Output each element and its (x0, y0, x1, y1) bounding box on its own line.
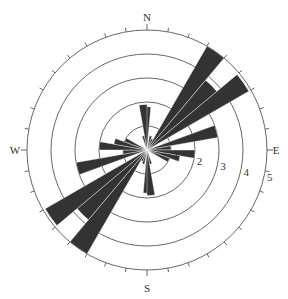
tick-mark (67, 242, 70, 245)
petals (45, 46, 249, 254)
tick-mark (52, 70, 55, 73)
tick-mark (224, 55, 227, 58)
tick-mark (52, 227, 55, 230)
tick-mark (105, 263, 106, 267)
tick-mark (40, 210, 43, 212)
tick-mark (125, 28, 126, 32)
tick-mark (168, 268, 169, 272)
tick-mark (85, 254, 87, 257)
label-south: S (144, 282, 150, 294)
tick-mark (265, 128, 269, 129)
ring-label-2: 2 (197, 155, 203, 167)
tick-mark (260, 191, 264, 192)
tick-mark (239, 70, 242, 73)
tick-mark (85, 43, 87, 46)
tick-mark (25, 128, 29, 129)
tick-mark (67, 55, 70, 58)
rose-diagram: N S W E 12345 (0, 0, 288, 299)
tick-mark (188, 263, 189, 267)
ring-label-4: 4 (244, 166, 250, 178)
tick-mark (40, 88, 43, 90)
tick-mark (207, 43, 209, 46)
label-east: E (273, 144, 280, 156)
tick-mark (207, 254, 209, 257)
tick-mark (239, 227, 242, 230)
tick-mark (105, 33, 106, 37)
ring-label-1: 1 (173, 149, 179, 161)
tick-mark (224, 242, 227, 245)
tick-mark (251, 210, 254, 212)
tick-mark (168, 28, 169, 32)
label-west: W (10, 144, 21, 156)
tick-mark (251, 88, 254, 90)
label-north: N (143, 11, 151, 23)
tick-mark (25, 171, 29, 172)
tick-mark (125, 268, 126, 272)
tick-mark (30, 108, 34, 109)
tick-mark (30, 191, 34, 192)
ring-label-3: 3 (220, 160, 226, 172)
tick-mark (188, 33, 189, 37)
ring-label-5: 5 (267, 171, 273, 183)
tick-mark (260, 108, 264, 109)
